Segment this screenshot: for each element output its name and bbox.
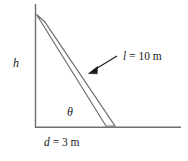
angle-theta-label: θ (67, 106, 73, 118)
ladder-length-value: = 10 m (126, 50, 162, 62)
ladder-body (37, 15, 116, 127)
diagram-canvas (0, 0, 188, 161)
base-distance-value: = 3 m (50, 136, 80, 148)
callout-arrow-head (89, 67, 98, 74)
base-distance-label: d = 3 m (44, 137, 80, 149)
ladder-diagram: h θ l = 10 m d = 3 m (0, 0, 188, 161)
ladder-length-label: l = 10 m (123, 51, 162, 63)
height-label: h (13, 57, 19, 69)
